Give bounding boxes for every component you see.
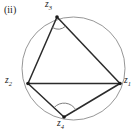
vertex-label-z2-subscript: 2 — [9, 80, 12, 87]
vertex-dot-z1 — [118, 82, 122, 86]
circumcircle — [22, 17, 125, 120]
segment-z3-z1 — [57, 17, 120, 84]
vertex-label-z1: z1 — [124, 76, 131, 87]
vertex-dot-z2 — [26, 82, 30, 86]
angle-arc-reflex-at-z4 — [54, 103, 76, 110]
inscribed-quadrilateral-figure: (ii) z3 z2 z1 z4 — [0, 0, 140, 129]
vertex-dot-z3 — [55, 15, 59, 19]
vertex-label-z3-subscript: 3 — [49, 4, 52, 11]
vertex-label-z1-subscript: 1 — [128, 80, 131, 87]
segment-z4-z1 — [64, 84, 120, 118]
vertex-label-z4-subscript: 4 — [61, 123, 64, 129]
vertex-label-z3: z3 — [45, 0, 52, 11]
vertex-label-z4: z4 — [57, 119, 64, 129]
vertex-label-z2: z2 — [5, 76, 12, 87]
angle-arc-at-z3 — [52, 26, 65, 29]
figure-canvas — [0, 0, 140, 129]
